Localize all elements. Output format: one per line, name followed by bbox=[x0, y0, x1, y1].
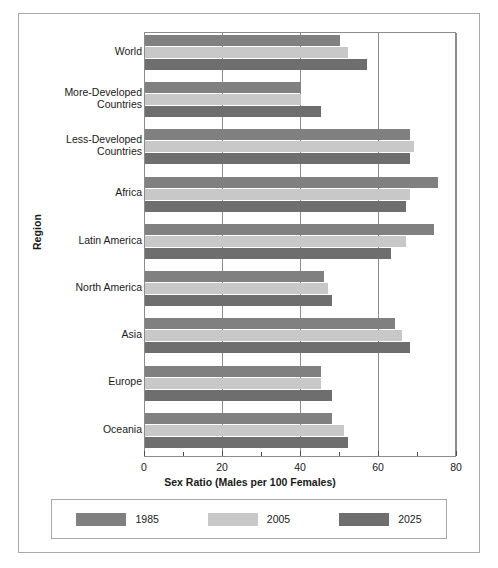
bar bbox=[145, 366, 321, 377]
x-axis-title: Sex Ratio (Males per 100 Females) bbox=[19, 476, 481, 488]
bar-group bbox=[145, 316, 455, 363]
bar bbox=[145, 94, 301, 105]
bar bbox=[145, 47, 348, 58]
plot-area bbox=[144, 32, 456, 457]
bar-group bbox=[145, 364, 455, 411]
bar bbox=[145, 201, 406, 212]
bar bbox=[145, 283, 328, 294]
y-tick-label: World bbox=[29, 45, 142, 58]
bar bbox=[145, 378, 321, 389]
legend-swatch bbox=[76, 513, 126, 526]
x-tick-mark bbox=[183, 452, 184, 456]
legend-item: 2005 bbox=[208, 513, 290, 526]
legend-swatch bbox=[339, 513, 389, 526]
legend-item: 2025 bbox=[339, 513, 421, 526]
x-tick-mark bbox=[261, 452, 262, 456]
bar-group bbox=[145, 33, 455, 80]
gridline bbox=[456, 33, 457, 456]
x-tick-mark bbox=[456, 451, 457, 456]
legend-items: 198520052025 bbox=[52, 500, 446, 538]
bar bbox=[145, 342, 410, 353]
x-tick-mark bbox=[144, 451, 145, 456]
bar bbox=[145, 224, 434, 235]
legend-label: 2005 bbox=[267, 513, 290, 525]
bar-group bbox=[145, 175, 455, 222]
x-tick-mark bbox=[300, 451, 301, 456]
x-tick-label: 20 bbox=[202, 461, 242, 473]
bar-group bbox=[145, 222, 455, 269]
x-tick-mark bbox=[378, 451, 379, 456]
bar bbox=[145, 330, 402, 341]
legend-label: 2025 bbox=[398, 513, 421, 525]
bar bbox=[145, 35, 340, 46]
bar bbox=[145, 413, 332, 424]
bar bbox=[145, 236, 406, 247]
bar bbox=[145, 425, 344, 436]
x-tick-label: 0 bbox=[124, 461, 164, 473]
y-tick-label: Africa bbox=[29, 186, 142, 199]
bar bbox=[145, 271, 324, 282]
bar bbox=[145, 82, 301, 93]
x-axis-tick-labels: 020406080 bbox=[144, 461, 456, 475]
y-tick-label: Europe bbox=[29, 375, 142, 388]
bar bbox=[145, 295, 332, 306]
bar bbox=[145, 141, 414, 152]
y-tick-label: More-Developed Countries bbox=[29, 86, 142, 111]
y-tick-label: Asia bbox=[29, 328, 142, 341]
x-tick-mark bbox=[417, 452, 418, 456]
bar-group bbox=[145, 269, 455, 316]
y-tick-label: Latin America bbox=[29, 234, 142, 247]
bar bbox=[145, 129, 410, 140]
y-axis-tick-labels: WorldMore-Developed CountriesLess-Develo… bbox=[29, 32, 142, 457]
legend-swatch bbox=[208, 513, 258, 526]
bar bbox=[145, 177, 438, 188]
bar bbox=[145, 189, 410, 200]
x-tick-label: 60 bbox=[358, 461, 398, 473]
bar bbox=[145, 153, 410, 164]
bar bbox=[145, 318, 395, 329]
legend-label: 1985 bbox=[135, 513, 158, 525]
bar bbox=[145, 106, 321, 117]
bar bbox=[145, 437, 348, 448]
bar-group bbox=[145, 127, 455, 174]
y-tick-label: Less-Developed Countries bbox=[29, 133, 142, 158]
bar bbox=[145, 248, 391, 259]
x-tick-mark bbox=[339, 452, 340, 456]
bar bbox=[145, 59, 367, 70]
x-tick-label: 40 bbox=[280, 461, 320, 473]
chart-legend: 198520052025 bbox=[51, 499, 447, 539]
y-tick-label: North America bbox=[29, 281, 142, 294]
chart-plot-region: Region WorldMore-Developed CountriesLess… bbox=[19, 14, 481, 484]
legend-item: 1985 bbox=[76, 513, 158, 526]
x-tick-label: 80 bbox=[436, 461, 476, 473]
bar bbox=[145, 390, 332, 401]
bar-group bbox=[145, 80, 455, 127]
y-tick-label: Oceania bbox=[29, 423, 142, 436]
chart-figure: Region WorldMore-Developed CountriesLess… bbox=[18, 13, 480, 553]
x-tick-mark bbox=[222, 451, 223, 456]
